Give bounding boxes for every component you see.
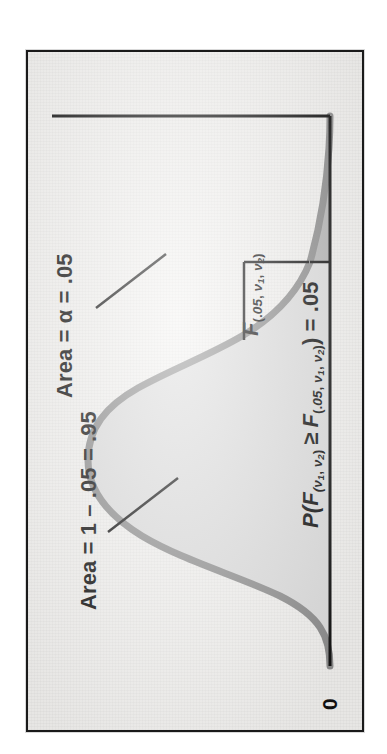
probability-f1: F [298, 492, 323, 506]
probability-tail: ) = .05 [298, 281, 323, 345]
probability-ge-sign: ≥ [298, 428, 323, 450]
origin-label: 0 [318, 698, 342, 710]
critical-value-label: F(.05, ν1, ν2) [238, 253, 266, 336]
rotated-plot-stage: Area = 1 – .05 = .95 Area = α = .05 F(.0… [30, 54, 360, 728]
probability-statement-label: P(F(ν1, ν2)≥F(.05, ν1, ν2)) = .05 [298, 281, 326, 528]
critical-value-subscript: (.05, ν1, ν2) [250, 253, 265, 322]
critical-value-symbol: F [238, 322, 263, 336]
probability-f1-subscript: (ν1, ν2) [310, 450, 325, 492]
probability-f2: F [298, 414, 323, 428]
probability-f2-subscript: (.05, ν1, ν2) [310, 345, 325, 414]
scanned-figure-frame: Area = 1 – .05 = .95 Area = α = .05 F(.0… [26, 50, 364, 732]
tail-area-label: Area = α = .05 [52, 253, 78, 398]
probability-open: P( [298, 506, 323, 528]
tail-area-leader-line [96, 254, 166, 308]
body-area-label: Area = 1 – .05 = .95 [76, 411, 102, 610]
figure-page: Area = 1 – .05 = .95 Area = α = .05 F(.0… [0, 0, 387, 754]
f-distribution-plot: Area = 1 – .05 = .95 Area = α = .05 F(.0… [30, 54, 360, 728]
